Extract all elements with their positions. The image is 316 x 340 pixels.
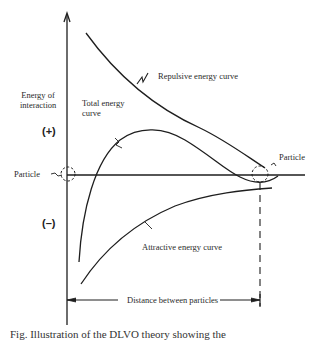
particle-right-pointer <box>271 163 276 166</box>
particle-left-circle <box>61 167 75 181</box>
negative-sign: (–) <box>42 217 55 229</box>
total-curve-label-line1: Total energy <box>82 98 124 108</box>
total-curve-label: Total energy curve <box>82 98 124 118</box>
distance-label: Distance between particles <box>127 295 218 305</box>
figure-caption: Fig. Illustration of the DLVO theory sho… <box>10 328 310 340</box>
distance-arrowhead-left <box>67 298 76 302</box>
attractive-curve-label: Attractive energy curve <box>142 242 222 252</box>
repulsive-curve-label: Repulsive energy curve <box>158 71 238 81</box>
attractive-pointer <box>145 222 152 229</box>
total-curve-label-line2: curve <box>82 108 124 118</box>
y-axis-label: Energy of interaction <box>20 90 56 110</box>
particle-right-circle <box>252 166 268 182</box>
particle-right-label: Particle <box>279 152 305 162</box>
y-axis-label-line1: Energy of <box>20 90 56 100</box>
y-axis-label-line2: interaction <box>20 100 56 110</box>
particle-left-label: Particle <box>14 169 40 179</box>
distance-arrowhead-right <box>251 298 260 302</box>
repulsive-pointer <box>137 73 148 84</box>
positive-sign: (+) <box>42 125 56 137</box>
attractive-energy-curve <box>81 188 272 284</box>
particle-left-pointer <box>51 173 62 176</box>
